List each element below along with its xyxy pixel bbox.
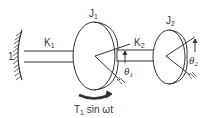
disk-j2-label: J2 xyxy=(166,15,175,27)
fixed-wall xyxy=(13,30,22,80)
torque-arrow xyxy=(79,91,112,99)
ground-label: 1 xyxy=(8,51,14,62)
theta1-label: θ1 xyxy=(124,65,133,79)
theta2-label: θ2 xyxy=(189,54,198,68)
theta2-arrow xyxy=(193,39,197,52)
shaft-k1-label: K1 xyxy=(44,37,55,49)
shaft-k2-label: K2 xyxy=(134,37,145,49)
angle2-ground-hatch xyxy=(188,72,197,79)
torsional-system-diagram: 1 K1 J1 K2 J2 θ1 θ2 T1 sin ωt xyxy=(0,0,206,118)
torque-label: T1 sin ωt xyxy=(74,104,113,116)
disk-j1-label: J1 xyxy=(89,8,98,20)
